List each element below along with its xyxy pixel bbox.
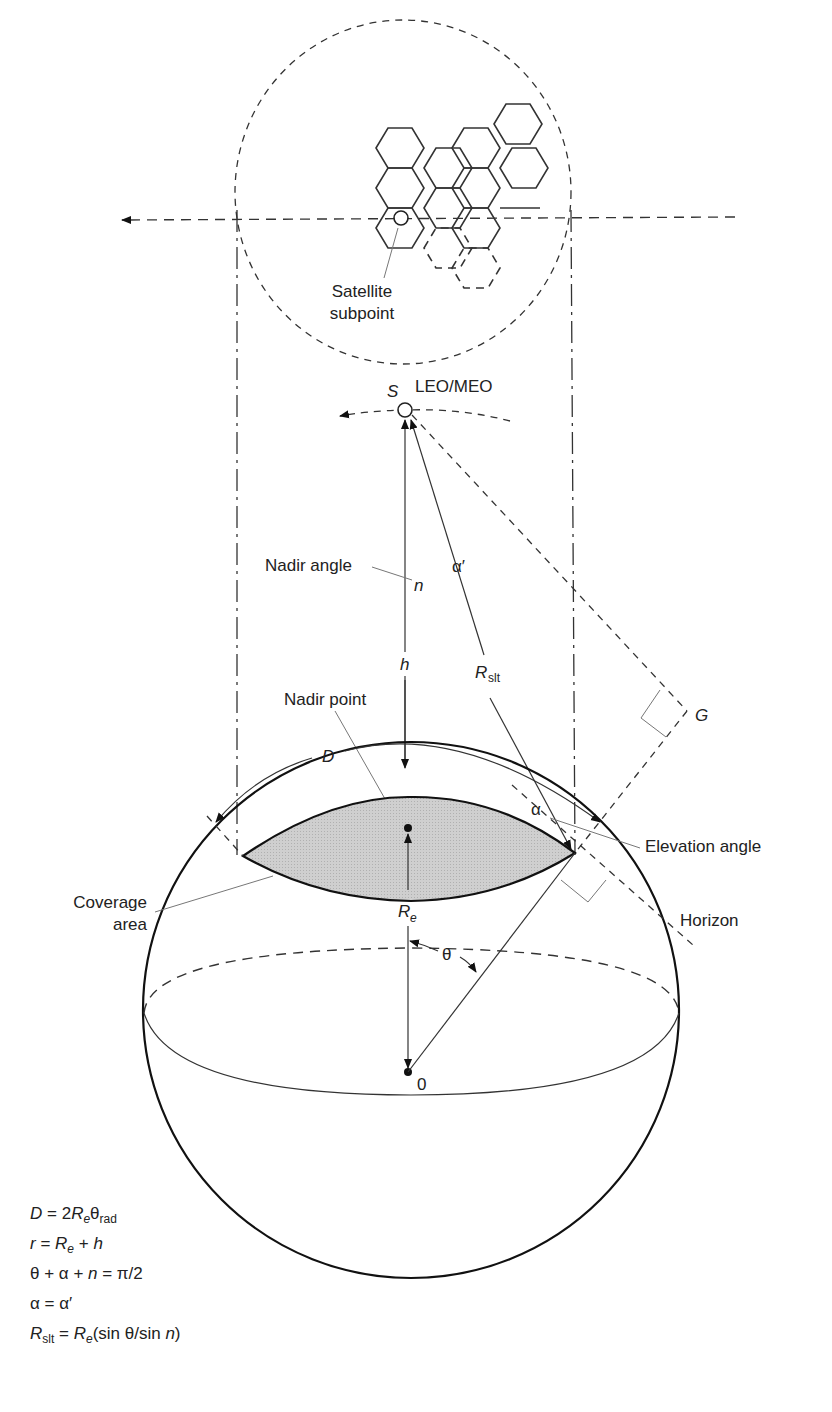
ground-track-line [122,217,735,220]
coverage-area-label-2: area [113,915,148,934]
slant-range-subscript: slt [488,671,501,685]
coverage-area-label: Coverage [73,893,147,912]
satellite-coverage-geometry-diagram: Satellite subpoint S LEO/MEO h Nadir ang… [0,0,832,1412]
alpha-prime-symbol: α′ [452,557,465,576]
equation-2: r = Re + h [30,1234,103,1256]
satellite-subpoint-marker [394,211,408,225]
footprint-circle [235,20,571,364]
slant-range-line [411,420,484,655]
altitude-symbol: h [400,655,409,674]
projection-line-right [571,210,575,855]
orbit-type-label: LEO/MEO [415,377,492,396]
D-label: D [322,747,334,766]
equator-back [144,948,679,1013]
nadir-point-label: Nadir point [284,690,366,709]
slant-range-symbol: R [475,663,487,682]
elevation-angle-label: Elevation angle [645,837,761,856]
satellite-subpoint-label-2: subpoint [330,304,395,323]
right-angle-marker-G [641,690,666,737]
theta-symbol: θ [442,945,451,964]
nadir-point-dot [404,824,412,832]
orbit-path [340,410,510,421]
equations-block: D = 2Reθrad r = Re + h θ + α + n = π/2 α… [30,1204,181,1346]
equator-front [144,1013,679,1095]
right-angle-marker-horizon [561,880,606,902]
alpha-symbol: α [531,800,541,819]
equation-5: Rslt = Re(sin θ/sin n) [30,1324,181,1346]
satellite-symbol: S [387,382,399,401]
footprint-projection: Satellite subpoint [122,20,735,364]
earth-center-label: 0 [417,1075,426,1094]
equation-3: θ + α + n = π/2 [30,1264,143,1283]
nadir-angle-symbol: n [414,576,423,595]
satellite-subpoint-label: Satellite [332,282,392,301]
earth-radius-symbol: R [398,902,410,921]
equation-1: D = 2Reθrad [30,1204,117,1226]
coverage-area [243,797,575,901]
satellite-marker [398,403,412,417]
spot-beam-cells [376,104,548,288]
horizon-label: Horizon [680,911,739,930]
earth-radius-subscript: e [410,911,417,925]
nadir-angle-label: Nadir angle [265,556,352,575]
equation-4: α = α′ [30,1294,72,1313]
G-label: G [695,706,708,725]
